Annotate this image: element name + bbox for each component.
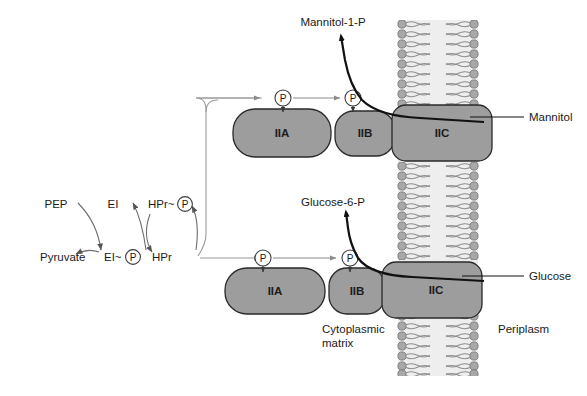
label-mannitol: Mannitol [529, 111, 572, 123]
pts-diagram-canvas: PEP Pyruvate EI EI~ P HPr~ P HPr IIA IIB [0, 0, 587, 396]
phosphate-glyph: P [280, 93, 287, 104]
phosphate-glyph: P [182, 199, 189, 210]
label-hpr: HPr [152, 251, 172, 263]
protein-label-iia: IIA [275, 127, 290, 139]
membrane-bilayer [398, 20, 478, 378]
phosphate-glyph: P [350, 93, 357, 104]
label-pyruvate: Pyruvate [40, 251, 85, 263]
phosphate-badge-ei: P [126, 250, 141, 265]
arc-hprp-to-hpr [146, 214, 152, 252]
label-mannitol-1-p: Mannitol-1-P [300, 16, 366, 28]
label-ei: EI [108, 198, 119, 210]
label-cytoplasmic-matrix-line1: Cytoplasmic [322, 323, 385, 335]
label-cytoplasmic-matrix-line2: matrix [322, 337, 354, 349]
protein-label-iic: IIC [435, 127, 450, 139]
protein-label-iia: IIA [268, 285, 283, 297]
protein-label-iib: IIB [358, 127, 373, 139]
arc-hpr-to-hprp [192, 206, 197, 250]
branch-corner [206, 100, 218, 112]
arc-eip-to-ei [133, 203, 146, 250]
label-hpr-phospho: HPr~ [148, 198, 175, 210]
phosphate-badge-hpr: P [178, 197, 193, 212]
phosphate-glyph: P [130, 252, 137, 263]
label-glucose: Glucose [529, 270, 571, 282]
label-glucose-6-p: Glucose-6-P [301, 196, 365, 208]
label-periplasm: Periplasm [498, 323, 549, 335]
phosphate-badge-iib-mannitol: P [345, 90, 361, 112]
protein-label-iic: IIC [429, 284, 444, 296]
label-pep: PEP [44, 198, 67, 210]
label-ei-phospho: EI~ [104, 251, 122, 263]
arc-pep-to-eip [78, 203, 101, 250]
protein-label-iib: IIB [350, 285, 365, 297]
pts-diagram-svg: PEP Pyruvate EI EI~ P HPr~ P HPr IIA IIB [0, 0, 587, 396]
phosphate-glyph: P [347, 253, 354, 264]
pep-pyruvate-cycle: PEP Pyruvate EI EI~ P HPr~ P HPr [40, 197, 197, 265]
phosphate-glyph: P [260, 253, 267, 264]
